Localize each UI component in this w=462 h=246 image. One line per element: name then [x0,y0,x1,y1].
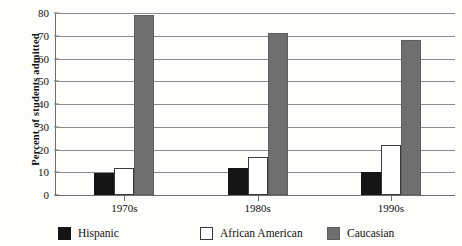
y-tick-label: 80 [20,7,49,19]
x-tick-label-1970s: 1970s [84,202,164,214]
white-square-swatch [200,227,213,240]
black-square-swatch [58,227,71,240]
y-tick-label: 50 [20,75,49,87]
gray-square-swatch [327,227,340,240]
chart-legend: HispanicAfrican AmericanCaucasian [0,224,462,244]
legend-item-african-american[interactable]: African American [200,224,303,242]
y-tick-label: 40 [20,98,49,110]
x-tick-label-1990s: 1990s [351,202,431,214]
x-tick-label-1980s: 1980s [218,202,298,214]
bar-chart: Percent of students admitted 01020304050… [0,0,462,246]
bar-hispanic-1970s [94,173,114,195]
bar-hispanic-1990s [361,172,381,195]
bar-caucasian-1980s [268,33,288,195]
bar-african-american-1980s [248,157,268,195]
bar-hispanic-1980s [228,168,248,195]
x-axis-line [55,195,455,196]
x-tick-mark [391,195,392,201]
bar-group-1980s [188,13,321,195]
y-tick-label: 10 [20,166,49,178]
bar-group-1970s [55,13,188,195]
legend-label: Hispanic [78,227,119,239]
y-tick-label: 60 [20,53,49,65]
legend-item-hispanic[interactable]: Hispanic [58,224,119,242]
x-tick-mark [124,195,125,201]
legend-label: African American [220,227,303,239]
plot-area [55,13,455,195]
y-tick-label: 20 [20,144,49,156]
y-tick-label: 70 [20,30,49,42]
legend-label: Caucasian [347,227,394,239]
legend-item-caucasian[interactable]: Caucasian [327,224,394,242]
y-tick-label: 30 [20,121,49,133]
y-tick-label: 0 [20,189,49,201]
x-tick-mark [258,195,259,201]
bar-african-american-1990s [381,145,401,195]
bar-group-1990s [322,13,455,195]
bar-caucasian-1990s [401,40,421,195]
bar-caucasian-1970s [134,15,154,195]
bar-african-american-1970s [114,168,134,195]
